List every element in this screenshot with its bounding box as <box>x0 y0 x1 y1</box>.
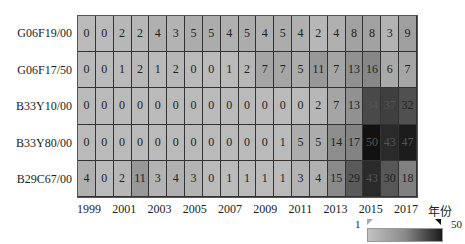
heatmap-cell: 0 <box>185 88 203 124</box>
heatmap-cell: 4 <box>78 161 96 197</box>
heatmap-cell: 1 <box>221 161 239 197</box>
heatmap-cell: 6 <box>381 52 399 88</box>
colorbar-high-marker-icon <box>435 219 441 225</box>
heatmap-cell: 0 <box>78 88 96 124</box>
x-tick-label: 2011 <box>289 202 313 218</box>
heatmap-cell: 4 <box>167 161 185 197</box>
heatmap-cell: 29 <box>346 161 364 197</box>
y-tick-label: G06F19/00 <box>0 15 72 52</box>
heatmap-cell: 4 <box>149 16 167 52</box>
heatmap-cell: 14 <box>328 125 346 161</box>
heatmap-cell: 43 <box>381 125 399 161</box>
heatmap-cell: 4 <box>292 16 310 52</box>
colorbar-legend: 1 50 <box>355 218 465 244</box>
heatmap-cell: 2 <box>239 52 257 88</box>
heatmap-grid: 0022435545454248839001212001277511713166… <box>77 15 418 198</box>
x-tick-label: 2013 <box>323 202 347 218</box>
heatmap-cell: 5 <box>239 16 257 52</box>
heatmap-cell: 11 <box>132 161 150 197</box>
heatmap-cell: 0 <box>239 125 257 161</box>
heatmap-cell: 43 <box>363 161 381 197</box>
x-tick-label <box>347 202 358 218</box>
x-tick-label: 2015 <box>359 202 383 218</box>
heatmap-cell: 2 <box>167 52 185 88</box>
heatmap-cell: 0 <box>78 16 96 52</box>
heatmap-cell: 3 <box>292 161 310 197</box>
heatmap-cell: 0 <box>96 52 114 88</box>
heatmap-cell: 2 <box>310 16 328 52</box>
x-tick-label: 1999 <box>77 202 101 218</box>
heatmap-cell: 2 <box>310 88 328 124</box>
x-tick-label: 2017 <box>394 202 418 218</box>
x-tick-label <box>277 202 288 218</box>
heatmap-cell: 2 <box>132 16 150 52</box>
heatmap-cell: 4 <box>310 161 328 197</box>
heatmap-cell: 47 <box>399 125 417 161</box>
colorbar-low-marker-icon <box>367 219 373 225</box>
heatmap-cell: 0 <box>221 88 239 124</box>
heatmap-cell: 4 <box>256 16 274 52</box>
heatmap-cell: 0 <box>132 125 150 161</box>
heatmap-cell: 16 <box>363 52 381 88</box>
heatmap-cell: 0 <box>239 88 257 124</box>
heatmap-cell: 0 <box>185 52 203 88</box>
y-tick-label: B33Y10/00 <box>0 88 72 125</box>
colorbar-gradient <box>367 228 443 242</box>
x-tick-label: 2001 <box>112 202 136 218</box>
heatmap-cell: 2 <box>114 161 132 197</box>
heatmap-cell: 50 <box>363 125 381 161</box>
heatmap-cell: 0 <box>96 125 114 161</box>
heatmap-cell: 0 <box>96 88 114 124</box>
heatmap-cell: 9 <box>399 16 417 52</box>
heatmap-cell: 1 <box>274 161 292 197</box>
heatmap-cell: 3 <box>381 16 399 52</box>
heatmap-cell: 3 <box>167 16 185 52</box>
heatmap-cell: 3 <box>185 161 203 197</box>
x-tick-label: 2007 <box>218 202 242 218</box>
heatmap-cell: 13 <box>346 88 364 124</box>
heatmap-cell: 7 <box>399 52 417 88</box>
heatmap-cell: 0 <box>256 88 274 124</box>
heatmap-cell: 1 <box>149 52 167 88</box>
heatmap-cell: 0 <box>185 125 203 161</box>
heatmap-cell: 8 <box>346 16 364 52</box>
x-tick-label <box>207 202 218 218</box>
heatmap-cell: 0 <box>114 125 132 161</box>
heatmap-cell: 32 <box>399 88 417 124</box>
heatmap-cell: 13 <box>346 52 364 88</box>
x-tick-label: 2005 <box>183 202 207 218</box>
heatmap-cell: 0 <box>149 88 167 124</box>
heatmap-cell: 0 <box>167 88 185 124</box>
heatmap-cell: 0 <box>221 125 239 161</box>
y-tick-label: G06F17/50 <box>0 52 72 89</box>
heatmap-cell: 5 <box>185 16 203 52</box>
heatmap-cell: 4 <box>221 16 239 52</box>
heatmap-cell: 0 <box>78 52 96 88</box>
x-tick-label <box>242 202 253 218</box>
x-tick-label <box>136 202 147 218</box>
heatmap-cell: 0 <box>274 88 292 124</box>
x-axis-ticks: 1999200120032005200720092011201320152017 <box>77 202 418 218</box>
heatmap-cell: 1 <box>256 161 274 197</box>
heatmap-cell: 5 <box>203 16 221 52</box>
heatmap-cell: 4 <box>328 16 346 52</box>
heatmap-cell: 0 <box>96 161 114 197</box>
heatmap-cell: 37 <box>381 88 399 124</box>
heatmap-cell: 2 <box>114 16 132 52</box>
heatmap-cell: 5 <box>310 125 328 161</box>
heatmap-cell: 0 <box>78 125 96 161</box>
heatmap-cell: 7 <box>328 52 346 88</box>
x-tick-label: 2003 <box>148 202 172 218</box>
y-tick-label: B33Y80/00 <box>0 125 72 162</box>
heatmap-cell: 0 <box>292 88 310 124</box>
heatmap-cell: 30 <box>381 161 399 197</box>
heatmap-cell: 1 <box>114 52 132 88</box>
heatmap-cell: 7 <box>256 52 274 88</box>
heatmap-cell: 0 <box>203 52 221 88</box>
heatmap-cell: 0 <box>132 88 150 124</box>
heatmap-cell: 2 <box>132 52 150 88</box>
heatmap-cell: 0 <box>256 125 274 161</box>
heatmap-cell: 0 <box>114 88 132 124</box>
heatmap-cell: 5 <box>292 125 310 161</box>
heatmap-cell: 0 <box>167 125 185 161</box>
